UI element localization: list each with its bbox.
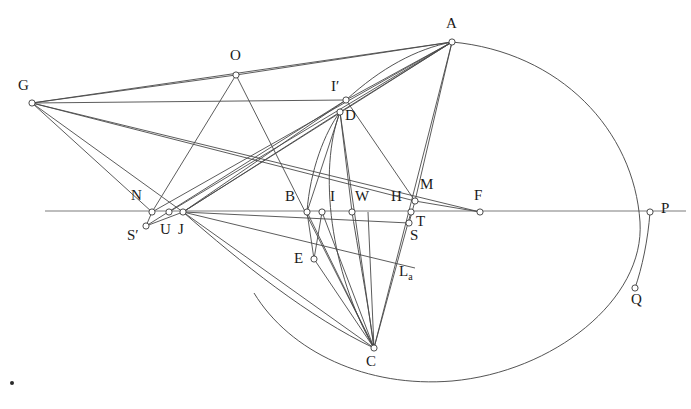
point-label-W: W	[355, 189, 369, 204]
point-marker-F	[477, 209, 483, 215]
arcs-layer	[183, 42, 650, 382]
point-marker-J	[180, 209, 186, 215]
point-label-Q: Q	[631, 292, 642, 307]
point-label-N: N	[131, 188, 142, 203]
point-marker-U	[166, 209, 172, 215]
point-label-I: I′	[331, 79, 339, 94]
point-marker-A	[449, 39, 455, 45]
segment-J-C	[183, 212, 374, 348]
stray-dot	[10, 381, 14, 385]
point-label-S: S	[410, 228, 418, 243]
point-label-D: D	[345, 108, 356, 123]
arc-arc-D-to-C	[329, 112, 374, 348]
segment-D-A	[340, 42, 452, 112]
segment-O-N	[152, 75, 236, 212]
stray-dot-layer	[10, 381, 14, 385]
point-label-O: O	[230, 48, 241, 63]
segment-A-C	[374, 42, 452, 348]
point-marker-Sp	[143, 223, 149, 229]
point-marker-N	[149, 209, 155, 215]
point-label-M: M	[420, 177, 433, 192]
point-marker-C	[371, 345, 377, 351]
segment-X1-E	[314, 212, 322, 259]
label-subscript: a	[408, 271, 412, 282]
point-marker-M	[412, 198, 418, 204]
point-label-B: B	[285, 189, 295, 204]
point-label-La: La	[399, 264, 413, 282]
segment-M-F	[415, 201, 480, 212]
point-label-C: C	[366, 354, 376, 369]
segment-J-Ip	[183, 100, 346, 212]
segment-N-A	[152, 42, 452, 212]
point-markers-layer	[29, 39, 653, 351]
point-marker-Ip	[343, 97, 349, 103]
figure-canvas	[0, 0, 691, 409]
segment-X1-C	[322, 212, 374, 348]
point-marker-D	[337, 109, 343, 115]
point-label-H: H	[391, 189, 402, 204]
point-label-P: P	[661, 201, 669, 216]
segment-E-C	[314, 259, 374, 348]
point-marker-E	[311, 256, 317, 262]
arc-main-circle-APQC	[254, 42, 640, 382]
segment-J-S	[183, 212, 409, 223]
point-marker-P	[647, 209, 653, 215]
point-label-E: E	[294, 251, 303, 266]
point-label-I: I	[330, 189, 335, 204]
point-label-J: J	[178, 222, 184, 237]
point-marker-H	[408, 209, 414, 215]
point-label-G: G	[18, 78, 29, 93]
point-marker-B	[304, 209, 310, 215]
point-marker-O	[233, 72, 239, 78]
point-label-A: A	[446, 16, 457, 31]
label-base: L	[399, 263, 408, 279]
segment-G-A-upper	[32, 42, 452, 103]
point-marker-X1	[319, 209, 325, 215]
segment-G-J	[32, 103, 183, 212]
point-label-F: F	[474, 188, 482, 203]
point-marker-I	[349, 209, 355, 215]
point-marker-G	[29, 100, 35, 106]
point-label-S: S′	[127, 228, 139, 243]
point-label-U: U	[160, 222, 171, 237]
segment-Ip-A	[346, 42, 452, 100]
geometry-figure: AGOI′DNS′UJBIWHMTSFPQECLa	[0, 0, 691, 409]
point-marker-T	[406, 220, 412, 226]
segment-G-Ip	[32, 100, 346, 103]
